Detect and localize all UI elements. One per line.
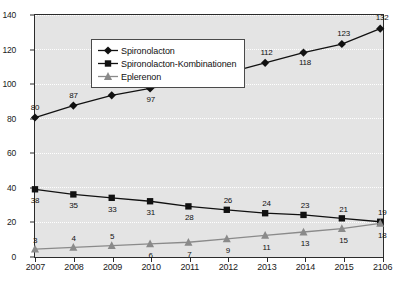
legend-marker-diamond-icon	[97, 45, 119, 56]
line-chart: (Mio. DDD) 020406080100120140 2007200820…	[0, 0, 406, 284]
x-axis-tick-label: 2013	[247, 262, 287, 272]
data-point-marker	[261, 59, 269, 67]
data-point-label: 18	[378, 231, 387, 240]
data-point-label: 7	[187, 250, 191, 259]
data-point-marker	[300, 212, 306, 218]
gridline	[35, 15, 383, 16]
series-line	[35, 189, 380, 221]
data-point-label: 118	[299, 58, 311, 67]
legend-label: Spironolacton	[119, 46, 175, 56]
data-point-label: 9	[226, 246, 230, 255]
y-axis-tick-label: 100	[0, 79, 16, 89]
data-point-label: 23	[301, 201, 310, 210]
x-axis-tick-label: 2008	[54, 262, 94, 272]
data-point-marker	[147, 198, 153, 204]
data-point-marker	[146, 240, 154, 248]
data-point-marker	[185, 203, 191, 209]
y-axis-tick-label: 40	[0, 183, 16, 193]
x-axis-tick-label: 2011	[170, 262, 210, 272]
data-point-marker	[376, 25, 384, 33]
x-axis-tick-label: 2106	[363, 262, 403, 272]
x-axis-tick-mark	[228, 258, 229, 262]
data-point-marker	[104, 46, 112, 54]
data-point-label: 35	[69, 201, 78, 210]
data-point-label: 3	[33, 236, 37, 245]
gridline	[35, 118, 383, 119]
data-point-label: 132	[376, 13, 389, 22]
y-axis-tick-label: 120	[0, 45, 16, 55]
x-axis-tick-mark	[305, 258, 306, 262]
x-axis-tick-label: 2010	[131, 262, 171, 272]
x-axis-tick-mark	[383, 258, 384, 262]
data-point-marker	[261, 231, 269, 239]
legend-item-2[interactable]: Spironolacton-Kombinationen	[97, 57, 236, 70]
data-point-label: 15	[339, 236, 348, 245]
data-point-label: 87	[69, 91, 78, 100]
data-point-label: 6	[149, 251, 153, 260]
data-point-label: 80	[31, 103, 40, 112]
data-point-marker	[69, 243, 77, 251]
data-point-label: 13	[301, 239, 310, 248]
data-point-marker	[338, 40, 346, 48]
x-axis-tick-mark	[344, 258, 345, 262]
gridline	[35, 187, 383, 188]
data-point-label: 11	[263, 243, 271, 252]
legend-marker-square-icon	[97, 58, 119, 69]
legend-label: Eplerenon	[119, 72, 161, 82]
gridline	[35, 222, 383, 223]
data-point-marker	[31, 245, 39, 253]
legend-item-3[interactable]: Eplerenon	[97, 70, 236, 83]
data-point-label: 97	[146, 95, 155, 104]
data-point-label: 28	[185, 213, 194, 222]
data-point-marker	[262, 210, 268, 216]
data-point-label: 123	[337, 29, 350, 38]
data-point-label: 38	[31, 196, 40, 205]
y-axis-tick-label: 60	[0, 148, 16, 158]
data-point-marker	[108, 241, 116, 249]
data-point-marker	[338, 224, 346, 232]
legend-marker-triangle-icon	[97, 71, 119, 82]
chart-legend: SpironolactonSpironolacton-Kombinationen…	[91, 39, 245, 88]
data-point-marker	[105, 60, 111, 66]
x-axis-tick-label: 2015	[324, 262, 364, 272]
x-axis-tick-mark	[113, 258, 114, 262]
legend-label: Spironolacton-Kombinationen	[119, 59, 236, 69]
y-axis-tick-label: 0	[0, 252, 16, 262]
x-axis-tick-mark	[35, 258, 36, 262]
data-point-marker	[376, 219, 384, 227]
data-point-label: 33	[108, 205, 117, 214]
data-point-marker	[109, 195, 115, 201]
legend-item-1[interactable]: Spironolacton	[97, 44, 236, 57]
plot-area: 8087939710110611211812313238353331282624…	[34, 14, 384, 258]
data-point-marker	[108, 91, 116, 99]
gridline	[35, 153, 383, 154]
x-axis-tick-label: 2012	[208, 262, 248, 272]
x-axis-tick-label: 2007	[15, 262, 55, 272]
y-axis-tick-label: 80	[0, 114, 16, 124]
x-axis-tick-label: 2014	[285, 262, 325, 272]
data-point-marker	[224, 207, 230, 213]
data-point-marker	[223, 234, 231, 242]
data-point-marker	[339, 215, 345, 221]
series-line	[35, 223, 380, 249]
data-point-marker	[299, 228, 307, 236]
y-axis-tick-label: 140	[0, 10, 16, 20]
data-point-label: 26	[224, 196, 233, 205]
data-point-label: 24	[262, 199, 271, 208]
data-point-label: 31	[146, 208, 155, 217]
x-axis-tick-label: 2009	[93, 262, 133, 272]
data-point-label: 21	[339, 205, 348, 214]
data-point-label: 4	[71, 234, 75, 243]
data-point-marker	[69, 101, 77, 109]
data-point-marker	[184, 238, 192, 246]
x-axis-tick-mark	[74, 258, 75, 262]
data-point-label: 112	[260, 48, 272, 57]
x-axis-tick-mark	[267, 258, 268, 262]
data-point-label: 19	[378, 208, 387, 217]
data-point-label: 5	[110, 232, 114, 241]
y-axis-tick-label: 20	[0, 217, 16, 227]
data-point-marker	[70, 191, 76, 197]
